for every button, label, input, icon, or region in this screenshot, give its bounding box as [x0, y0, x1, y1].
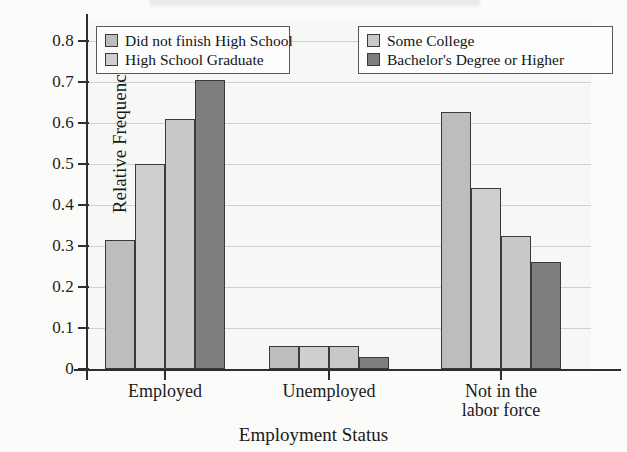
bar-1-0: [269, 346, 299, 369]
bar-0-2: [165, 119, 195, 369]
x-category-label-2: Not in thelabor force: [421, 382, 581, 421]
x-tick-0: [164, 369, 166, 380]
y-tick-label-0.1: 0.1: [34, 318, 74, 338]
gridline-0.7: [86, 82, 591, 83]
legend-item-0[interactable]: Did not finish High School: [105, 31, 281, 50]
legend-item-2[interactable]: Some College: [367, 31, 604, 50]
y-tick-0.7: [78, 81, 89, 83]
gridline-0.6: [86, 123, 591, 124]
y-axis-line: [86, 14, 88, 371]
x-category-label-1-line1: Unemployed: [249, 382, 409, 401]
legend-swatch-icon-2: [367, 34, 380, 47]
y-tick-label-0: 0: [34, 359, 74, 379]
bar-2-1: [471, 188, 501, 369]
bar-0-0: [105, 240, 135, 369]
legend-item-3[interactable]: Bachelor's Degree or Higher: [367, 50, 604, 69]
x-category-label-2-line2: labor force: [421, 401, 581, 420]
y-tick-label-0.6: 0.6: [34, 113, 74, 133]
bar-chart-figure: 00.10.20.30.40.50.60.70.8 EmployedUnempl…: [0, 0, 627, 452]
y-tick-0.4: [78, 204, 89, 206]
bar-1-1: [299, 346, 329, 369]
bar-2-0: [441, 112, 471, 369]
y-tick-0.2: [78, 286, 89, 288]
y-tick-label-0.3: 0.3: [34, 236, 74, 256]
legend-swatch-icon-3: [367, 53, 380, 66]
bar-2-2: [501, 236, 531, 369]
y-tick-label-0.5: 0.5: [34, 154, 74, 174]
x-axis-origin-tick: [86, 369, 88, 380]
x-category-label-0-line1: Employed: [85, 382, 245, 401]
y-tick-0.1: [78, 327, 89, 329]
legend-label-3: Bachelor's Degree or Higher: [387, 51, 564, 69]
bar-0-1: [135, 164, 165, 369]
bar-1-3: [359, 357, 389, 369]
x-category-label-1: Unemployed: [249, 382, 409, 401]
legend-item-1[interactable]: High School Graduate: [105, 50, 281, 69]
scan-artifact: [150, 0, 480, 9]
y-tick-label-0.4: 0.4: [34, 195, 74, 215]
x-axis-title: Employment Status: [0, 424, 627, 446]
y-tick-0.8: [78, 40, 89, 42]
legend-swatch-icon-1: [105, 53, 118, 66]
y-tick-0.5: [78, 163, 89, 165]
x-category-label-0: Employed: [85, 382, 245, 401]
y-tick-0.6: [78, 122, 89, 124]
y-tick-label-0.2: 0.2: [34, 277, 74, 297]
legend-label-0: Did not finish High School: [125, 32, 293, 50]
bar-1-2: [329, 346, 359, 369]
legend-swatch-icon-0: [105, 34, 118, 47]
bar-0-3: [195, 80, 225, 369]
legend-label-1: High School Graduate: [125, 51, 264, 69]
x-tick-1: [328, 369, 330, 380]
legend-box-right: Some College Bachelor's Degree or Higher: [358, 26, 613, 74]
legend-box-left: Did not finish High School High School G…: [96, 26, 290, 74]
y-tick-0.3: [78, 245, 89, 247]
legend-label-2: Some College: [387, 32, 474, 50]
y-tick-label-0.8: 0.8: [34, 31, 74, 51]
x-axis-line: [74, 369, 621, 371]
y-axis-tick-labels: 00.10.20.30.40.50.60.70.8: [28, 0, 74, 452]
x-tick-2: [500, 369, 502, 380]
x-category-label-2-line1: Not in the: [421, 382, 581, 401]
y-tick-label-0.7: 0.7: [34, 72, 74, 92]
bar-2-3: [531, 262, 561, 369]
